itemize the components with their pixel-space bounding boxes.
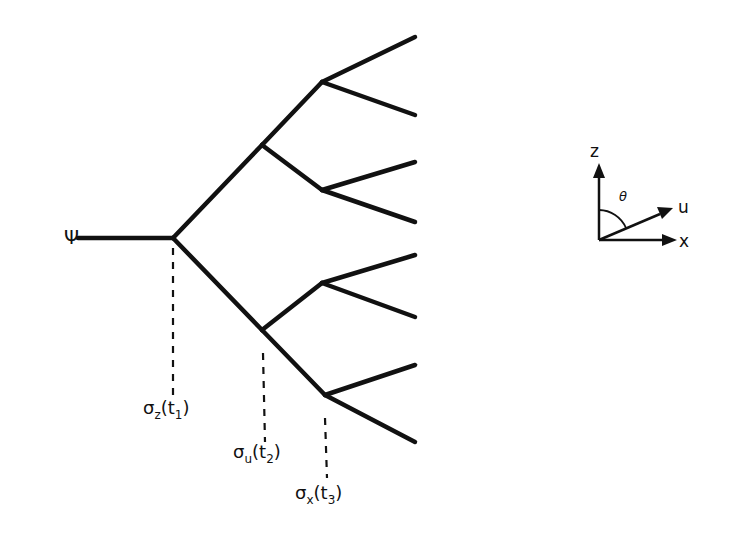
z-axis-label: z [590,141,599,161]
branch-l2-du [262,283,322,330]
measurement-marker-3 [325,418,327,478]
leaf-5 [322,255,415,283]
leaf-2 [322,82,415,115]
leaf-3 [322,162,415,190]
u-axis-label: u [678,197,689,217]
leaf-8 [325,395,415,442]
theta-angle-label: θ [619,189,627,204]
measurement-marker-2 [263,353,265,442]
z-arrowhead-icon [593,163,605,178]
branch-l2-dd [262,330,325,395]
leaf-4 [322,190,415,222]
measurement-label-3: σx(t3) [295,482,342,507]
measurement-label-2: σu(t2) [233,441,281,466]
branching-tree-diagram [0,0,729,540]
branch-l2-ud [262,145,322,190]
root-state-label: Ψ [64,226,79,248]
theta-arc [599,210,626,228]
branch-l1-down [173,238,262,330]
x-arrowhead-icon [662,234,677,246]
branch-l2-uu [262,82,322,145]
leaf-7 [325,365,415,395]
branch-l1-up [173,145,262,238]
x-axis-label: x [679,231,689,251]
u-axis [599,214,660,240]
leaf-1 [322,37,415,82]
leaf-6 [322,283,415,317]
axes-legend [593,163,677,246]
measurement-label-1: σz(t1) [143,397,190,422]
